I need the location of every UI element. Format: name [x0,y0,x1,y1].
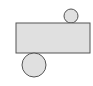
lateral-surface-rectangle [16,23,90,53]
cylinder-net-diagram [0,0,93,86]
top-circle-base [64,9,78,23]
bottom-circle-base [22,53,46,77]
